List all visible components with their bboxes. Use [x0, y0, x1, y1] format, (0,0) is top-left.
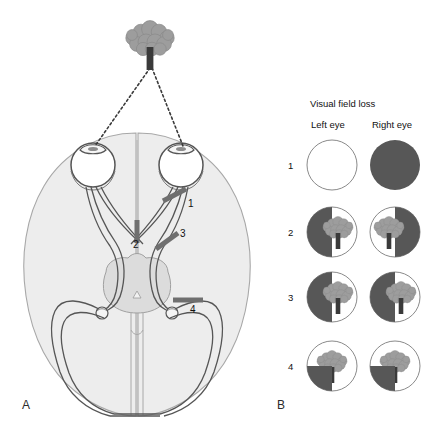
visual-field-loss-title: Visual field loss	[310, 98, 375, 109]
field-disc-1-right	[370, 140, 420, 190]
panel-b-fields	[0, 0, 433, 434]
lesion-number-1: 1	[188, 198, 194, 209]
column-header-right-eye: Right eye	[372, 119, 412, 130]
field-disc-1-left	[307, 140, 357, 190]
field-disc-3-right	[370, 272, 420, 322]
field-row-4	[307, 341, 420, 391]
lesion-number-2: 2	[133, 239, 139, 250]
field-row-number-3: 3	[288, 292, 293, 303]
figure-visual-pathway: Visual field loss Left eye Right eye 1 2…	[0, 0, 433, 434]
column-header-left-eye: Left eye	[311, 119, 345, 130]
field-row-number-1: 1	[288, 160, 293, 171]
panel-label-a: A	[22, 398, 30, 412]
field-disc-4-right	[370, 341, 420, 391]
field-disc-3-left	[307, 272, 357, 322]
field-row-2	[307, 207, 420, 257]
panel-label-b: B	[277, 398, 285, 412]
lesion-number-4: 4	[190, 304, 196, 315]
field-row-3	[307, 272, 420, 322]
field-row-number-4: 4	[288, 361, 293, 372]
field-row-1	[307, 140, 420, 190]
lesion-number-3: 3	[180, 228, 186, 239]
field-disc-2-left	[307, 207, 357, 257]
field-disc-4-left	[307, 341, 357, 391]
field-disc-2-right	[370, 207, 420, 257]
field-row-number-2: 2	[288, 227, 293, 238]
